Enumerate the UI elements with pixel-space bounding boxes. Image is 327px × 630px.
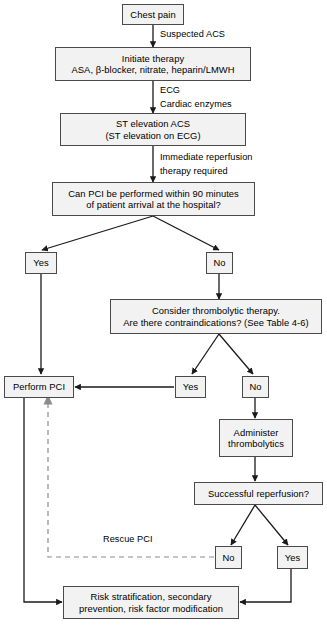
node-label-line2: of patient arrival at the hospital? xyxy=(86,199,221,210)
edge-reperfusion-no xyxy=(231,505,255,545)
node-label: No xyxy=(222,552,234,563)
node-pci-yes[interactable]: Yes xyxy=(25,252,57,274)
node-label-line1: Initiate therapy xyxy=(122,53,184,64)
node-reperfusion-no[interactable]: No xyxy=(215,546,242,569)
edge-pciquestion-yes xyxy=(42,216,153,250)
node-label: Chest pain xyxy=(130,9,175,20)
node-label-line2: Are there contraindications? (See Table … xyxy=(123,317,308,328)
edge-label-immediate-reperfusion: Immediate reperfusion xyxy=(160,152,252,163)
node-label: Yes xyxy=(285,552,300,563)
node-administer-thrombolytics[interactable]: Administer thrombolytics xyxy=(219,419,293,457)
edge-label-suspected-acs: Suspected ACS xyxy=(160,29,225,40)
edge-label-cardiac-enzymes: Cardiac enzymes xyxy=(160,99,232,110)
node-label: Yes xyxy=(33,257,48,268)
node-pci-no[interactable]: No xyxy=(206,252,233,274)
node-thrombolytic-question[interactable]: Consider thrombolytic therapy. Are there… xyxy=(110,299,322,334)
edge-label-ecg: ECG xyxy=(160,85,180,96)
node-perform-pci[interactable]: Perform PCI xyxy=(4,376,74,398)
node-label-line1: Risk stratification, secondary xyxy=(91,591,212,602)
node-label-line2: prevention, risk factor modification xyxy=(79,603,223,614)
node-st-elevation-acs[interactable]: ST elevation ACS (ST elevation on ECG) xyxy=(60,113,246,146)
node-risk-stratification[interactable]: Risk stratification, secondary preventio… xyxy=(63,586,239,619)
node-label: No xyxy=(249,381,261,392)
edge-label-therapy-required: therapy required xyxy=(160,166,228,177)
node-contraindication-yes[interactable]: Yes xyxy=(175,376,206,398)
node-label: Perform PCI xyxy=(13,381,65,392)
node-chest-pain[interactable]: Chest pain xyxy=(122,4,184,25)
node-label-line2: ASA, β-blocker, nitrate, heparin/LMWH xyxy=(71,64,234,75)
node-label-line2: (ST elevation on ECG) xyxy=(105,130,200,141)
node-label-line1: Can PCI be performed within 90 minutes xyxy=(68,188,239,199)
node-label-line1: Consider thrombolytic therapy. xyxy=(152,305,280,316)
node-pci-question[interactable]: Can PCI be performed within 90 minutes o… xyxy=(52,182,255,216)
edge-performpci-risk xyxy=(24,398,62,602)
node-label-line1: ST elevation ACS xyxy=(116,118,190,129)
edge-reperfusion-yes xyxy=(255,505,288,545)
node-contraindication-no[interactable]: No xyxy=(242,376,269,398)
edge-reperfusionyes-risk xyxy=(240,569,291,602)
node-label: Successful reperfusion? xyxy=(208,488,309,499)
node-reperfusion-question[interactable]: Successful reperfusion? xyxy=(194,482,323,505)
node-reperfusion-yes[interactable]: Yes xyxy=(277,546,308,569)
node-label-line2: thrombolytics xyxy=(228,438,284,449)
node-initiate-therapy[interactable]: Initiate therapy ASA, β-blocker, nitrate… xyxy=(55,47,251,81)
node-label: No xyxy=(213,257,225,268)
edge-label-rescue-pci: Rescue PCI xyxy=(103,534,153,545)
edge-thrombolytic-no xyxy=(219,334,253,374)
flowchart-canvas: Chest pain Initiate therapy ASA, β-block… xyxy=(0,0,327,630)
edge-thrombolytic-yes xyxy=(192,334,219,374)
edge-pciquestion-no xyxy=(153,216,219,250)
node-label-line1: Administer xyxy=(234,427,279,438)
node-label: Yes xyxy=(183,381,198,392)
